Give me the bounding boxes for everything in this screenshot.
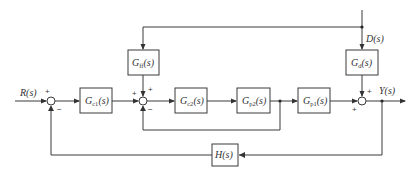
sum2-top-plus-sign: + bbox=[148, 85, 153, 94]
summing-junction-2 bbox=[139, 97, 147, 105]
sum3-left-plus-sign: + bbox=[352, 105, 357, 114]
summing-junction-3 bbox=[358, 97, 366, 105]
outer-feedback-arrow bbox=[48, 106, 54, 112]
disturbance-branch-point bbox=[360, 25, 363, 28]
sum3-top-plus-sign: + bbox=[367, 87, 372, 96]
block-gff-label: Gff(s) bbox=[132, 57, 155, 69]
sum1-plus-sign: + bbox=[45, 87, 50, 96]
inner-feedback-arrow bbox=[140, 106, 146, 112]
block-h-label: H(s) bbox=[214, 149, 233, 161]
h-input-arrow bbox=[239, 152, 245, 158]
sum2-minus-sign: − bbox=[148, 105, 153, 114]
block-diagram: R(s) + − Gc1(s) + + − Gff(s) Gc2(s) Gp2(… bbox=[0, 0, 415, 176]
output-label: Y(s) bbox=[379, 85, 396, 97]
summing-junction-1 bbox=[47, 97, 55, 105]
block-gd-label: Gd(s) bbox=[351, 57, 373, 69]
sum2-left-plus-sign: + bbox=[132, 89, 137, 98]
sum1-minus-sign: − bbox=[57, 105, 62, 114]
input-label: R(s) bbox=[19, 87, 37, 99]
disturbance-label: D(s) bbox=[365, 33, 384, 45]
